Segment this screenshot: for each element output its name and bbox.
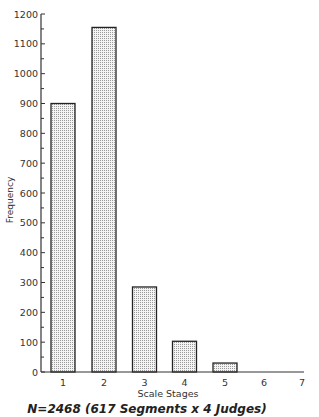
x-tick-label: 2: [101, 377, 107, 388]
y-axis-label: Frequency: [5, 176, 15, 223]
sample-size-annotation: N=2468 (617 Segments x 4 Judges): [27, 402, 266, 416]
x-tick-label: 3: [141, 377, 147, 388]
y-tick-label: 300: [20, 277, 38, 288]
bar-stage-4: [173, 341, 197, 372]
y-tick-label: 0: [32, 367, 38, 378]
y-tick-label: 600: [20, 188, 38, 199]
y-axis: 0100200300400500600700800900100011001200: [14, 9, 45, 378]
x-tick-label: 4: [181, 377, 187, 388]
bar-stage-1: [51, 104, 75, 373]
x-axis: 1234567: [41, 372, 305, 388]
bar-stage-3: [133, 287, 157, 372]
y-tick-label: 1100: [14, 38, 38, 49]
x-tick-label: 7: [299, 377, 305, 388]
y-tick-label: 900: [20, 98, 38, 109]
bar-chart: 0100200300400500600700800900100011001200…: [0, 0, 319, 417]
x-axis-label: Scale Stages: [138, 388, 199, 399]
y-tick-label: 200: [20, 307, 38, 318]
x-tick-label: 5: [222, 377, 228, 388]
y-tick-label: 1000: [14, 68, 38, 79]
y-tick-label: 1200: [14, 9, 38, 20]
x-tick-label: 6: [261, 377, 267, 388]
bar-stage-5: [213, 363, 237, 372]
y-tick-label: 100: [20, 337, 38, 348]
bar-stage-2: [92, 27, 116, 372]
y-tick-label: 800: [20, 128, 38, 139]
x-tick-label: 1: [60, 377, 66, 388]
y-tick-label: 400: [20, 247, 38, 258]
bars: [51, 27, 237, 372]
y-tick-label: 700: [20, 158, 38, 169]
y-tick-label: 500: [20, 217, 38, 228]
